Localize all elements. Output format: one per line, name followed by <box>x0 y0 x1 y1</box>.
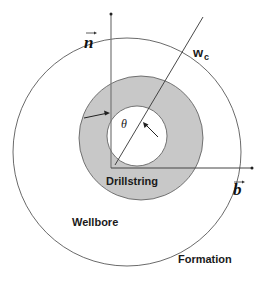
b-axis-tip-icon <box>251 167 254 170</box>
drillstring-label: Drillstring <box>106 175 158 187</box>
b-vector-label: b <box>233 180 242 199</box>
n-vector-arrowhead-icon <box>94 32 97 35</box>
theta-label: θ <box>121 117 127 131</box>
drillstring-wellbore-diagram: n b w c θ Drillstring Wellbore Formation <box>0 0 262 281</box>
wc-subscript: c <box>204 52 209 62</box>
b-vector-arrowhead-icon <box>242 181 245 184</box>
n-axis-tip-icon <box>110 13 113 16</box>
n-vector-label: n <box>84 33 93 52</box>
formation-label: Formation <box>178 253 232 265</box>
wellbore-label: Wellbore <box>72 216 118 228</box>
drillstring-inner-circle <box>107 106 167 166</box>
wc-label: w <box>192 45 204 60</box>
